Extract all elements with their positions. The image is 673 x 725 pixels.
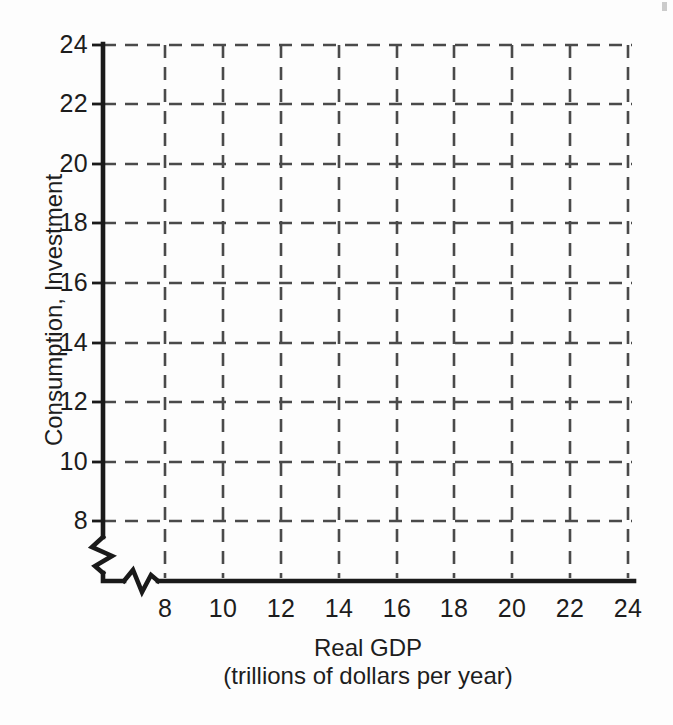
x-tick-label: 20 <box>487 596 537 621</box>
x-axis-break-icon <box>124 570 158 592</box>
x-axis-title: Real GDP (trillions of dollars per year) <box>103 634 633 691</box>
y-tick-label: 24 <box>44 32 88 57</box>
chart-page: 24 22 20 18 16 14 12 10 8 8 10 12 14 16 … <box>0 0 673 725</box>
axis-corner-stub <box>103 573 124 581</box>
x-tick-label: 18 <box>429 596 479 621</box>
x-tick-label: 24 <box>603 596 653 621</box>
x-tick-label: 14 <box>314 596 364 621</box>
x-tick-label: 16 <box>372 596 422 621</box>
x-axis-title-main: Real GDP <box>314 634 422 661</box>
grid-horizontal <box>103 45 632 521</box>
x-tick-label: 10 <box>198 596 248 621</box>
x-axis-title-units: (trillions of dollars per year) <box>103 662 633 690</box>
x-tick-label: 8 <box>140 596 190 621</box>
y-axis-break-icon <box>92 537 112 573</box>
x-tick-label: 12 <box>256 596 306 621</box>
x-tick-label: 22 <box>545 596 595 621</box>
grid-vertical <box>165 45 628 578</box>
chart-figure: 24 22 20 18 16 14 12 10 8 8 10 12 14 16 … <box>0 0 673 725</box>
y-axis-title: Consumption, Investment <box>40 80 68 540</box>
